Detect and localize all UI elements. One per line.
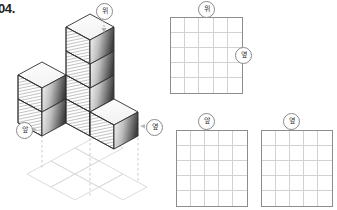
isometric-figure: [0, 0, 180, 210]
grid-cell[interactable]: [205, 161, 219, 176]
grid-cell[interactable]: [262, 161, 276, 176]
grid-front-view[interactable]: [176, 130, 248, 207]
grid-cell[interactable]: [228, 18, 242, 33]
grid-cell[interactable]: [304, 146, 318, 161]
grid-cell[interactable]: [262, 131, 276, 146]
page-root: 04.: [0, 0, 337, 210]
cube-group: [18, 14, 138, 149]
grid-front-view-label: 앞: [198, 113, 215, 130]
grid-cell[interactable]: [219, 131, 233, 146]
grid-cell[interactable]: [199, 63, 213, 78]
grid-cell[interactable]: [276, 176, 290, 191]
grid-cell[interactable]: [205, 146, 219, 161]
grid-cell[interactable]: [214, 78, 228, 93]
grid-cell[interactable]: [214, 48, 228, 63]
grid-cell[interactable]: [219, 191, 233, 206]
grid-cell[interactable]: [276, 146, 290, 161]
grid-cell[interactable]: [185, 78, 199, 93]
grid-cell[interactable]: [318, 146, 332, 161]
grid-cell[interactable]: [185, 33, 199, 48]
ghost-floor-grid: [27, 135, 147, 200]
grid-cell[interactable]: [191, 161, 205, 176]
grid-cell[interactable]: [185, 48, 199, 63]
grid-cell[interactable]: [214, 18, 228, 33]
grid-cell[interactable]: [304, 176, 318, 191]
grid-cell[interactable]: [219, 161, 233, 176]
grid-cell[interactable]: [304, 161, 318, 176]
grid-cell[interactable]: [214, 63, 228, 78]
grid-cell[interactable]: [191, 176, 205, 191]
grid-cell[interactable]: [276, 131, 290, 146]
grid-cell[interactable]: [290, 146, 304, 161]
grid-cell[interactable]: [191, 146, 205, 161]
grid-cell[interactable]: [262, 146, 276, 161]
grid-side-view[interactable]: [261, 130, 333, 207]
grid-side-view-label: 옆: [283, 113, 300, 130]
grid-cell[interactable]: [219, 146, 233, 161]
grid-cell[interactable]: [185, 18, 199, 33]
grid-cell[interactable]: [233, 176, 247, 191]
grid-cell[interactable]: [304, 131, 318, 146]
grid-cell[interactable]: [276, 191, 290, 206]
callout-front-view: 앞: [16, 122, 33, 139]
grid-cell[interactable]: [233, 146, 247, 161]
grid-top-view[interactable]: [170, 17, 243, 94]
grid-cell[interactable]: [228, 63, 242, 78]
grid-cell[interactable]: [205, 131, 219, 146]
grid-cell[interactable]: [191, 191, 205, 206]
grid-cell[interactable]: [262, 176, 276, 191]
callout-top-view: 위: [96, 3, 113, 20]
grid-cell[interactable]: [214, 33, 228, 48]
grid-cell[interactable]: [228, 78, 242, 93]
grid-cell[interactable]: [233, 161, 247, 176]
grid-cell[interactable]: [318, 176, 332, 191]
grid-cell[interactable]: [276, 161, 290, 176]
grid-cell[interactable]: [290, 191, 304, 206]
grid-cell[interactable]: [199, 18, 213, 33]
grid-cell[interactable]: [290, 131, 304, 146]
grid-cell[interactable]: [199, 48, 213, 63]
grid-cell[interactable]: [304, 191, 318, 206]
grid-cell[interactable]: [233, 191, 247, 206]
grid-cell[interactable]: [318, 131, 332, 146]
grid-cell[interactable]: [191, 131, 205, 146]
grid-cell[interactable]: [318, 161, 332, 176]
grid-cell[interactable]: [290, 176, 304, 191]
grid-cell[interactable]: [233, 131, 247, 146]
grid-top-view-label: 위: [198, 1, 215, 18]
callout-side-view: 옆: [146, 119, 163, 136]
grid-cell[interactable]: [185, 63, 199, 78]
grid-cell[interactable]: [219, 176, 233, 191]
grid-cell[interactable]: [205, 176, 219, 191]
grid-cell[interactable]: [199, 78, 213, 93]
grid-cell[interactable]: [199, 33, 213, 48]
grid-cell[interactable]: [205, 191, 219, 206]
grid-top-side-label: 옆: [235, 47, 252, 64]
cube-stack-svg: [0, 0, 180, 210]
grid-cell[interactable]: [228, 33, 242, 48]
grid-cell[interactable]: [290, 161, 304, 176]
grid-cell[interactable]: [262, 191, 276, 206]
grid-cell[interactable]: [318, 191, 332, 206]
